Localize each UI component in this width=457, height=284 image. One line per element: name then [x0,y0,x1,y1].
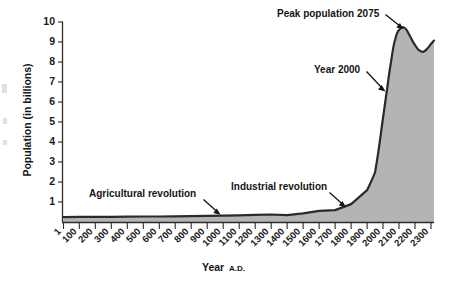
x-axis-ticks: 1 100 200 300 400 500 600 700 800 900 10… [51,223,431,249]
y-axis-ticks: 10 9 8 7 6 5 4 3 2 1 [43,15,62,207]
annotation-agricultural-revolution-label: Agricultural revolution [89,188,196,199]
chart-canvas: 10 9 8 7 6 5 4 3 2 1 1 100 [0,0,457,284]
x-tick-label-7: 700 [156,226,175,245]
x-axis-title-main: Year [202,261,224,273]
x-tick-label-6: 600 [140,226,159,245]
y-tick-label-2: 2 [49,175,55,187]
x-tick-label-23: 2300 [408,226,431,249]
annotation-industrial-revolution-label: Industrial revolution [231,181,327,192]
y-tick-label-10: 10 [43,15,55,27]
x-tick-label-5: 500 [124,226,143,245]
y-tick-label-4: 4 [49,135,55,147]
population-growth-chart: 10 9 8 7 6 5 4 3 2 1 1 100 [0,0,457,284]
y-tick-label-8: 8 [49,55,55,67]
x-axis-title-sub: A.D. [229,264,245,273]
x-tick-label-4: 400 [108,226,127,245]
x-tick-label-8: 800 [172,226,191,245]
y-tick-label-5: 5 [49,115,55,127]
y-tick-label-1: 1 [49,195,55,207]
x-tick-label-2: 200 [76,226,95,245]
annotation-year-2000-label: Year 2000 [314,64,361,75]
annotation-peak-population-label: Peak population 2075 [277,8,380,19]
y-axis-title: Population (in billions) [21,63,33,176]
y-tick-label-6: 6 [49,95,55,107]
y-tick-label-3: 3 [49,155,55,167]
y-tick-label-7: 7 [49,75,55,87]
x-tick-label-1: 100 [60,226,79,245]
x-tick-label-3: 300 [92,226,111,245]
y-tick-label-9: 9 [49,35,55,47]
x-axis-title: Year A.D. [202,261,245,273]
